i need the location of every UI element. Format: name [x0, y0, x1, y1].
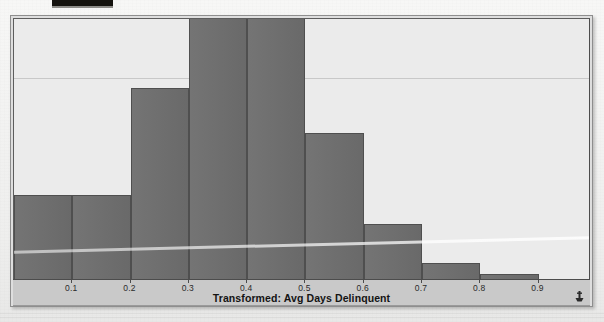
- plot-area: [13, 18, 590, 279]
- histogram-bar[interactable]: [422, 263, 480, 279]
- histogram-bar[interactable]: [247, 18, 305, 279]
- scanned-page: 0.10.20.30.40.50.60.70.80.9 Transformed:…: [0, 0, 604, 322]
- histogram-bar[interactable]: [131, 88, 189, 279]
- histogram-bar[interactable]: [305, 133, 363, 279]
- histogram-bar[interactable]: [14, 195, 72, 279]
- top-black-strip-shadow: [52, 6, 113, 8]
- x-axis-line: [13, 279, 590, 280]
- page-fold-line: [0, 313, 604, 314]
- x-axis: 0.10.20.30.40.50.60.70.80.9 Transformed:…: [13, 279, 590, 306]
- page-fold-line: [0, 317, 604, 318]
- histogram-chart-panel: 0.10.20.30.40.50.60.70.80.9 Transformed:…: [10, 15, 593, 307]
- histogram-bar[interactable]: [72, 195, 130, 279]
- histogram-bar[interactable]: [364, 224, 422, 279]
- histogram-bar[interactable]: [189, 18, 247, 279]
- x-axis-title: Transformed: Avg Days Delinquent: [13, 292, 590, 304]
- anchor-marker-icon[interactable]: [575, 291, 584, 302]
